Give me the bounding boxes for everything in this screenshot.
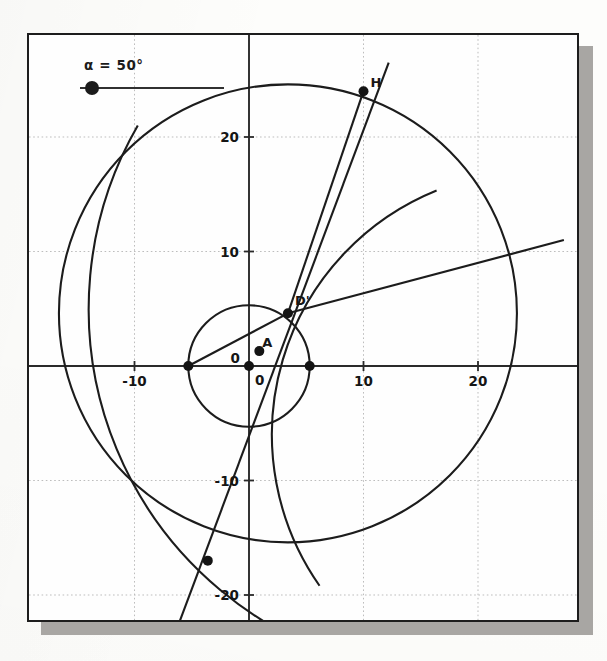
point-label-Dp: D' [295, 293, 310, 308]
y-axis-tick-label: -20 [215, 587, 239, 603]
line-through-H [175, 63, 389, 620]
y-axis-tick-label: 10 [220, 244, 239, 260]
geometry-canvas[interactable]: -1001020-20-1001020 [29, 35, 577, 620]
alpha-slider-knob[interactable] [85, 81, 99, 95]
y-axis-tick-label: 20 [220, 129, 239, 145]
point-label-H: H [371, 75, 382, 90]
point-Cl[interactable] [183, 361, 193, 371]
ray-through-Dprime [288, 240, 564, 313]
alpha-slider-label: α = 50° [84, 57, 144, 73]
point-Cr[interactable] [305, 361, 315, 371]
segment-Dprime-H [288, 91, 364, 313]
x-axis-tick-label: 0 [255, 372, 264, 388]
point-O[interactable] [244, 361, 254, 371]
alpha-slider-track[interactable] [80, 87, 224, 89]
grid-lines [29, 35, 577, 620]
point-label-A: A [262, 335, 272, 350]
y-axis-tick-label: -10 [215, 473, 239, 489]
x-axis-tick-label: 20 [469, 373, 488, 389]
point-P[interactable] [203, 556, 213, 566]
y-axis-tick-label: 0 [231, 350, 240, 366]
x-axis-tick-label: 10 [354, 373, 373, 389]
geometry-applet-panel[interactable]: -1001020-20-1001020 α = 50° HD'A [27, 33, 579, 622]
axes [29, 35, 577, 620]
x-axis-tick-label: -10 [122, 373, 146, 389]
alpha-slider[interactable]: α = 50° [72, 57, 232, 103]
point-Dp[interactable] [283, 308, 293, 318]
point-H[interactable] [359, 86, 369, 96]
